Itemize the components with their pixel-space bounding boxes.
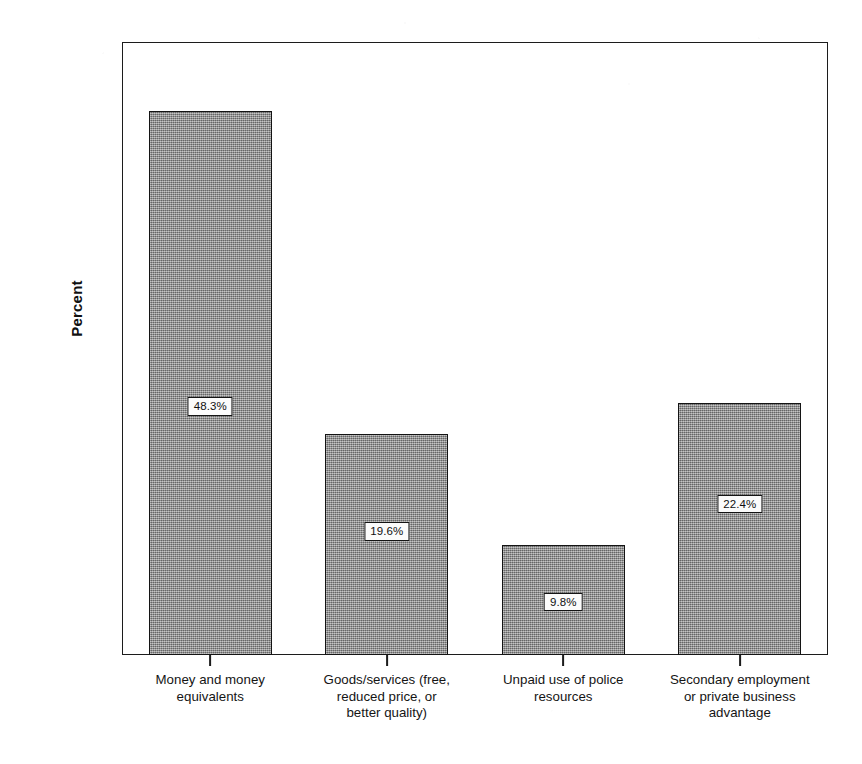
bar-chart: Percent 0.0%10.0%20.0%30.0%40.0%50.0% 48… <box>0 0 862 764</box>
bar <box>149 111 272 655</box>
bar-value-label: 9.8% <box>544 593 583 612</box>
x-axis-category-line: advantage <box>642 705 838 722</box>
bar <box>678 403 801 655</box>
bar-value-label: 48.3% <box>188 397 233 416</box>
x-axis-category-line: Money and money <box>112 672 308 689</box>
x-axis-category-line: Secondary employment <box>642 672 838 689</box>
bar-value-label: 19.6% <box>364 522 409 541</box>
x-axis-category-line: reduced price, or <box>289 689 485 706</box>
x-axis-category-label: Unpaid use of policeresources <box>465 672 661 705</box>
x-axis-tick-mark <box>562 655 564 666</box>
x-axis-category-line: resources <box>465 689 661 706</box>
x-axis-tick-mark <box>386 655 388 666</box>
x-axis-category-line: Goods/services (free, <box>289 672 485 689</box>
x-axis-category-label: Money and moneyequivalents <box>112 672 308 705</box>
x-axis-category-line: better quality) <box>289 705 485 722</box>
x-axis-category-line: or private business <box>642 689 838 706</box>
x-axis-category-line: Unpaid use of police <box>465 672 661 689</box>
bar <box>325 434 448 655</box>
x-axis-category-label: Secondary employmentor private businessa… <box>642 672 838 722</box>
x-axis-category-line: equivalents <box>112 689 308 706</box>
x-axis-tick-mark <box>209 655 211 666</box>
bar-value-label: 22.4% <box>717 495 762 514</box>
x-axis-category-label: Goods/services (free,reduced price, orbe… <box>289 672 485 722</box>
y-axis-title: Percent <box>68 239 85 379</box>
x-axis-tick-mark <box>739 655 741 666</box>
